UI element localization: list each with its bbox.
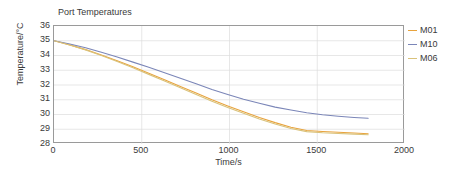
legend-swatch-icon	[408, 58, 417, 59]
legend-label: M10	[420, 40, 438, 49]
legend-item-m06[interactable]: M06	[408, 53, 466, 64]
plot-area	[53, 25, 404, 143]
series-line-m01	[54, 41, 368, 134]
y-tick-label: 32	[26, 80, 50, 89]
legend-label: M01	[420, 26, 438, 35]
y-tick-label: 35	[26, 35, 50, 44]
x-tick-label: 1000	[209, 146, 249, 155]
x-tick-label: 0	[33, 146, 73, 155]
y-tick-label: 29	[26, 124, 50, 133]
y-tick-label: 34	[26, 50, 50, 59]
legend-item-m10[interactable]: M10	[408, 39, 466, 50]
x-tick-label: 500	[121, 146, 161, 155]
chart-legend: M01M10M06	[408, 25, 466, 67]
series-lines	[54, 41, 368, 135]
y-tick-label: 36	[26, 21, 50, 30]
chart-title: Port Temperatures	[58, 7, 132, 17]
y-tick-label: 30	[26, 109, 50, 118]
y-tick-label: 33	[26, 65, 50, 74]
legend-swatch-icon	[408, 30, 417, 31]
chart-container: Port Temperatures Temperature/°C 2829303…	[0, 0, 466, 177]
legend-swatch-icon	[408, 44, 417, 45]
x-axis-title: Time/s	[53, 157, 404, 167]
series-line-m10	[54, 41, 368, 118]
y-tick-label: 31	[26, 94, 50, 103]
legend-label: M06	[420, 54, 438, 63]
x-tick-label: 2000	[384, 146, 424, 155]
legend-item-m01[interactable]: M01	[408, 25, 466, 36]
x-tick-label: 1500	[296, 146, 336, 155]
grid-lines	[54, 26, 405, 144]
y-axis-title: Temperature/°C	[15, 2, 25, 106]
series-line-m06	[54, 41, 368, 135]
plot-svg	[54, 26, 405, 144]
